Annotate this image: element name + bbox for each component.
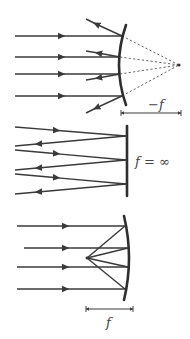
convex-mirror <box>119 25 126 105</box>
plane-mirror-diagram: f = ∞ <box>15 126 170 196</box>
incident-rays <box>15 36 122 96</box>
incident-rays <box>17 226 128 289</box>
mirror-focal-length-diagram: −f f = ∞ <box>0 0 190 339</box>
infinite-focal-length-label: f = ∞ <box>134 154 170 169</box>
virtual-ray-extensions <box>120 36 179 96</box>
rays <box>15 127 126 194</box>
focal-length-label: f <box>105 315 113 330</box>
reflected-rays <box>87 226 128 289</box>
negative-focal-length-label: −f <box>148 97 166 112</box>
convex-mirror-diagram: −f <box>15 19 181 113</box>
reflected-rays <box>86 19 122 113</box>
virtual-focal-point <box>177 63 180 66</box>
concave-mirror-diagram: f <box>17 216 133 330</box>
concave-mirror <box>124 216 129 300</box>
focal-point <box>86 257 89 260</box>
